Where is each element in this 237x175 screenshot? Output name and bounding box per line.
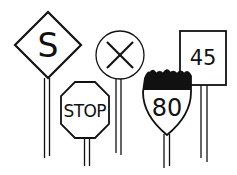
interstate-shield-sign: 80	[143, 70, 191, 135]
diamond-sign: S	[15, 12, 81, 78]
interstate-shield-label: 80	[152, 94, 183, 122]
speed-limit-sign-label: 45	[190, 46, 217, 70]
speed-limit-sign-post	[201, 85, 207, 162]
road-signs-illustration: S 45 80 STOP	[0, 0, 237, 175]
diamond-sign-post	[45, 78, 50, 158]
stop-sign: STOP	[61, 82, 109, 138]
circle-sign-post	[116, 79, 121, 155]
stop-sign-label: STOP	[64, 101, 107, 121]
diamond-sign-label: S	[38, 26, 59, 65]
interstate-shield-sign-post	[164, 134, 170, 168]
circle-sign	[96, 31, 144, 79]
stop-sign-post	[85, 138, 90, 166]
